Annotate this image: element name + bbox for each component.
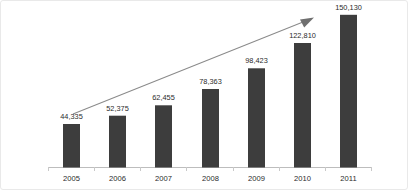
category-label-2009: 2009	[248, 174, 265, 183]
chart-card: 44,335 52,375 62,455 78,363 98,423 122,8…	[0, 0, 408, 190]
trend-arrow-head	[300, 18, 314, 28]
bar-chart: 44,335 52,375 62,455 78,363 98,423 122,8…	[1, 1, 408, 190]
category-label-2010: 2010	[294, 174, 311, 183]
category-label-2011: 2011	[340, 174, 356, 183]
bar-2007[interactable]	[155, 105, 172, 167]
data-label-2010: 122,810	[289, 31, 316, 40]
data-label-2009: 98,423	[245, 56, 268, 65]
category-label-2008: 2008	[202, 174, 219, 183]
bar-2010[interactable]	[294, 43, 311, 168]
bar-2005[interactable]	[63, 124, 80, 168]
data-label-2008: 78,363	[199, 77, 222, 86]
data-label-2007: 62,455	[152, 93, 175, 102]
data-label-2011: 150,130	[335, 3, 362, 12]
bar-2008[interactable]	[202, 89, 219, 168]
category-label-2007: 2007	[155, 174, 172, 183]
data-label-2006: 52,375	[106, 104, 129, 113]
bar-2009[interactable]	[248, 68, 265, 167]
bar-2011[interactable]	[340, 15, 357, 168]
bar-2006[interactable]	[109, 116, 126, 168]
data-label-2005: 44,335	[60, 112, 83, 121]
trend-arrow-line	[73, 20, 308, 114]
category-label-2005: 2005	[63, 174, 80, 183]
category-label-2006: 2006	[109, 174, 126, 183]
